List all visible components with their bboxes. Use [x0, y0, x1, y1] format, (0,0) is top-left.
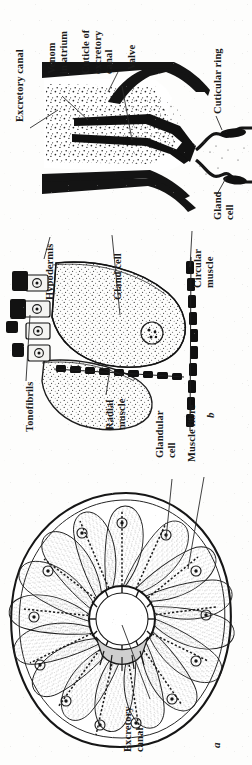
label-gland-cell-panel-b: Gland cell	[112, 253, 124, 300]
label-cuticle-of-excretory-canal: Cuticle of excretory canal	[80, 30, 115, 74]
panel-letter-b: b	[204, 413, 216, 419]
label-hypodermis: Hypodermis	[44, 244, 56, 300]
label-radial-muscle: Radial muscle	[104, 398, 127, 430]
label-excretory-canal-panel-a: Excretory canal	[122, 706, 145, 752]
label-muscle-fibre: Muscle fibre	[186, 405, 198, 462]
label-gland-cell-panel-c: Gland cell	[212, 191, 235, 220]
label-glandular-cell: Glandular cell	[154, 410, 177, 458]
panel-letter-a: a	[210, 743, 222, 749]
label-valve: Valve	[126, 45, 138, 70]
label-excretory-canal-panel-c: Excretory canal	[14, 49, 26, 122]
label-circular-muscle: Circular muscle	[192, 249, 215, 288]
label-cuticular-ring: Cuticular ring	[212, 48, 224, 114]
label-venom-in-atrium: Venom in atrium	[46, 31, 69, 74]
figure-canvas: Excretory canal Venom in atrium Cuticle …	[0, 0, 252, 765]
label-tonofibrils: Tonofibrils	[24, 382, 36, 432]
